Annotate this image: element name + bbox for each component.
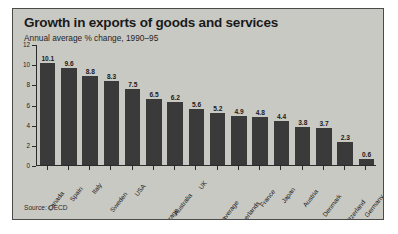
bar-value-label: 8.8 (86, 68, 95, 75)
bar-value-label: 3.7 (319, 120, 328, 127)
bar: 3.8 (295, 127, 311, 165)
bar: 3.7 (316, 128, 332, 165)
y-tick-label: 0 (26, 162, 30, 169)
bar-value-label: 7.5 (128, 81, 137, 88)
x-axis-label-text: Switzerland (340, 198, 366, 220)
y-tick-label: 4 (26, 122, 30, 129)
y-axis-line (36, 45, 37, 166)
x-tick-mark (153, 166, 154, 170)
bar-value-label: 5.2 (213, 105, 222, 112)
x-tick-mark (217, 166, 218, 170)
bar-value-label: 4.8 (256, 109, 265, 116)
x-axis-label: Italy (98, 172, 111, 186)
y-tick-mark (32, 126, 36, 127)
y-tick-label: 10 (23, 61, 30, 68)
bar: 4.9 (231, 116, 247, 165)
chart-panel: Growth in exports of goods and services … (12, 8, 384, 220)
x-axis-label: Japan (291, 172, 307, 190)
x-tick-mark (344, 166, 345, 170)
x-axis-label-text: Japan (280, 186, 296, 204)
x-axis-label-text: Austria (301, 188, 319, 208)
x-tick-mark (302, 166, 303, 170)
x-tick-mark (238, 166, 239, 170)
y-tick-mark (32, 166, 36, 167)
bar-value-label: 3.8 (298, 119, 307, 126)
y-tick-label: 2 (26, 142, 30, 149)
x-tick-mark (259, 166, 260, 170)
bar: 8.3 (104, 81, 120, 165)
bar-value-label: 8.3 (107, 73, 116, 80)
y-tick-label: 6 (26, 102, 30, 109)
bar-value-label: 0.6 (362, 151, 371, 158)
x-axis-label-text: Sweden (109, 191, 129, 214)
y-tick-label: 12 (23, 41, 30, 48)
bar: 7.5 (125, 89, 141, 165)
bar: 2.3 (337, 142, 353, 165)
x-tick-mark (174, 166, 175, 170)
bar-value-label: 10.1 (41, 55, 54, 62)
x-tick-mark (132, 166, 133, 170)
bar-value-label: 6.5 (149, 91, 158, 98)
bar: 6.5 (146, 99, 162, 165)
x-tick-mark (195, 166, 196, 170)
bar: 6.2 (167, 102, 183, 165)
y-tick-mark (32, 65, 36, 66)
y-tick-mark (32, 146, 36, 147)
x-axis-label: Austria (313, 172, 331, 192)
bar: 5.6 (189, 109, 205, 165)
bar: 8.8 (82, 76, 98, 165)
x-axis-label: Denmark (337, 172, 359, 197)
x-tick-mark (110, 166, 111, 170)
x-axis-label-text: Denmark (321, 193, 343, 218)
plot-area: 121086420 10.19.68.88.37.56.56.25.65.24.… (36, 45, 376, 166)
source-note: Source: OECD (24, 204, 68, 211)
bar-value-label: 4.4 (277, 113, 286, 120)
x-axis-label: USA (141, 172, 155, 187)
bar-value-label: 5.6 (192, 101, 201, 108)
chart-subtitle: Annual average % change, 1990–95 (24, 33, 158, 43)
x-axis-label-text: EU average (213, 199, 240, 220)
x-tick-mark (47, 166, 48, 170)
bar-value-label: 9.6 (64, 60, 73, 67)
x-tick-mark (280, 166, 281, 170)
bar: 4.4 (274, 121, 290, 165)
bar-value-label: 4.9 (234, 108, 243, 115)
x-tick-mark (365, 166, 366, 170)
y-tick-mark (32, 45, 36, 46)
bar: 10.1 (40, 63, 56, 165)
x-axis-line (36, 165, 376, 166)
chart-title: Growth in exports of goods and services (24, 15, 278, 30)
y-tick-label: 8 (26, 81, 30, 88)
bar: 5.2 (210, 113, 226, 165)
bar: 9.6 (61, 68, 77, 165)
x-tick-mark (68, 166, 69, 170)
bar: 0.6 (359, 159, 375, 165)
bar-value-label: 2.3 (341, 134, 350, 141)
y-tick-mark (32, 85, 36, 86)
y-tick-mark (32, 106, 36, 107)
x-axis-label-text: Italy (90, 181, 103, 195)
bar-value-label: 6.2 (171, 94, 180, 101)
x-tick-mark (89, 166, 90, 170)
bar: 4.8 (252, 117, 268, 165)
x-tick-mark (323, 166, 324, 170)
